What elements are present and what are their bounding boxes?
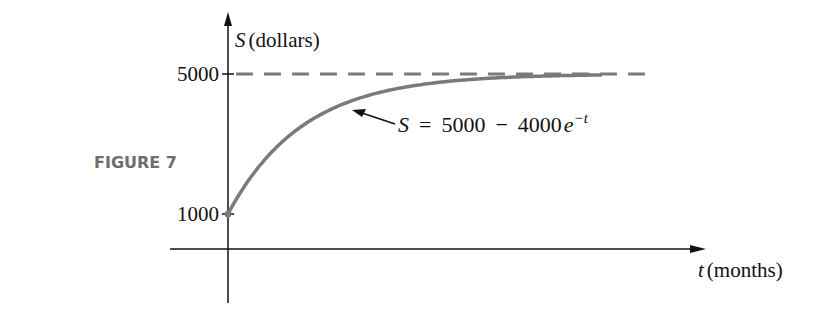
x-axis-label: t(months)	[698, 258, 783, 282]
series-curve	[228, 75, 602, 214]
curve-equation: S=5000−4000e−t	[398, 110, 589, 137]
y-tick-label-5000: 5000	[177, 62, 219, 86]
figure-label: FIGURE 7	[94, 153, 177, 172]
y-tick-label-1000: 1000	[177, 202, 219, 226]
y-axis-arrow-icon	[224, 12, 232, 26]
annotation-arrow	[362, 113, 395, 124]
curve-start-point	[225, 211, 232, 218]
y-axis-label: S(dollars)	[235, 28, 320, 52]
figure: FIGURE 7 S(dollars) t(months) 50001000 S…	[0, 0, 820, 313]
annotation-arrowhead-icon	[352, 109, 366, 117]
x-axis-arrow-icon	[690, 245, 706, 253]
